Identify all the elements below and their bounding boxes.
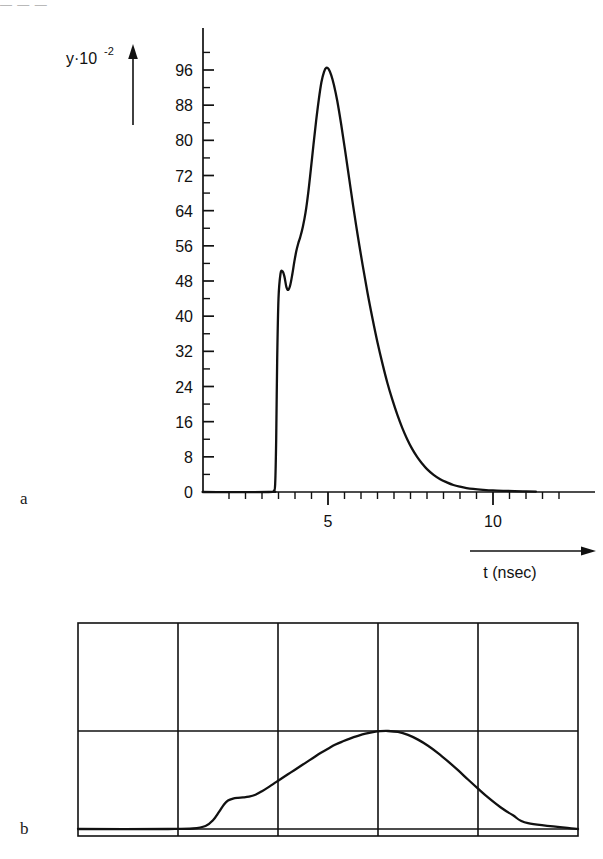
panel-b: b — [0, 600, 603, 859]
panel-a-x-tick-labels: 510 — [324, 513, 502, 530]
x-axis-arrowhead-icon — [581, 546, 596, 555]
panel-a-y-tick-labels: 081624324048566472808896 — [175, 62, 193, 501]
y-axis-title: y·10 -2 — [66, 45, 114, 67]
x-axis-title-text: t (nsec) — [483, 564, 536, 581]
y-tick-label: 40 — [175, 308, 193, 325]
panel-b-plot — [0, 600, 603, 859]
panel-a-plot: y·10 -2 081624324048566472808896 510 t (… — [0, 0, 603, 600]
y-axis-arrow-icon — [128, 44, 138, 125]
panel-b-trace-curve — [78, 731, 578, 829]
x-axis-title: t (nsec) — [470, 546, 596, 581]
panel-b-graticule — [78, 623, 578, 836]
y-tick-label: 96 — [175, 62, 193, 79]
y-tick-label: 64 — [175, 203, 193, 220]
y-tick-label: 0 — [184, 484, 193, 501]
x-tick-label: 5 — [324, 513, 333, 530]
panel-a-tick-marks — [203, 52, 559, 505]
y-axis-title-text: y·10 — [66, 50, 97, 67]
y-tick-label: 24 — [175, 379, 193, 396]
y-tick-label: 48 — [175, 273, 193, 290]
y-tick-label: 56 — [175, 238, 193, 255]
x-tick-label: 10 — [484, 513, 502, 530]
panel-a: a y·10 -2 081624324048566472808896 510 t… — [0, 0, 603, 600]
y-tick-label: 8 — [184, 449, 193, 466]
y-tick-label: 88 — [175, 97, 193, 114]
y-tick-label: 16 — [175, 414, 193, 431]
y-tick-label: 72 — [175, 168, 193, 185]
y-tick-label: 80 — [175, 132, 193, 149]
y-axis-title-exponent: -2 — [104, 45, 114, 57]
panel-a-pulse-curve — [203, 68, 536, 492]
y-tick-label: 32 — [175, 343, 193, 360]
